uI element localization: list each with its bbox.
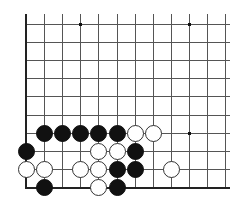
white-stone <box>36 161 53 178</box>
grid-line-horizontal <box>26 96 230 97</box>
grid-line-horizontal <box>26 78 230 79</box>
white-stone <box>127 125 144 142</box>
black-stone <box>127 143 144 160</box>
star-point-icon <box>188 23 191 26</box>
grid-line-vertical <box>207 14 208 187</box>
grid-line-vertical <box>189 14 190 187</box>
black-stone <box>36 125 53 142</box>
grid-line-horizontal <box>26 115 230 116</box>
white-stone <box>145 125 162 142</box>
grid-line-vertical <box>153 14 154 187</box>
black-stone <box>36 179 53 196</box>
go-board[interactable] <box>0 0 245 205</box>
grid-line-vertical <box>62 14 63 187</box>
black-stone <box>18 143 35 160</box>
black-stone <box>109 179 126 196</box>
black-stone <box>109 125 126 142</box>
white-stone <box>109 143 126 160</box>
board-edge-bottom <box>25 187 230 189</box>
white-stone <box>90 179 107 196</box>
grid-line-horizontal <box>26 24 230 25</box>
white-stone <box>18 161 35 178</box>
white-stone <box>163 161 180 178</box>
star-point-icon <box>79 23 82 26</box>
black-stone <box>54 125 71 142</box>
grid-line-horizontal <box>26 42 230 43</box>
white-stone <box>72 161 89 178</box>
black-stone <box>127 161 144 178</box>
grid-line-vertical <box>225 14 226 187</box>
white-stone <box>90 161 107 178</box>
grid-line-horizontal <box>26 60 230 61</box>
black-stone <box>90 125 107 142</box>
black-stone <box>72 125 89 142</box>
black-stone <box>109 161 126 178</box>
white-stone <box>90 143 107 160</box>
star-point-icon <box>188 132 191 135</box>
